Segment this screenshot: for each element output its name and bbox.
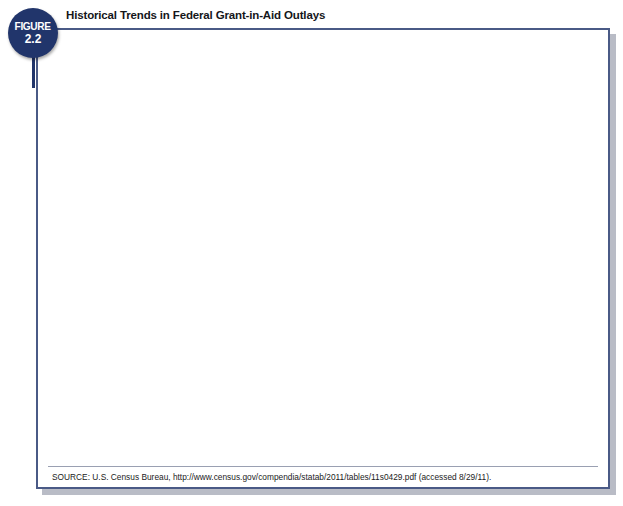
source-note: SOURCE: U.S. Census Bureau, http://www.c… (52, 472, 491, 482)
figure-badge-number: 2.2 (25, 32, 42, 46)
source-divider (48, 466, 598, 467)
figure-badge: FIGURE 2.2 (8, 8, 58, 58)
page-title: Historical Trends in Federal Grant-in-Ai… (66, 9, 325, 21)
figure-frame (36, 28, 610, 489)
